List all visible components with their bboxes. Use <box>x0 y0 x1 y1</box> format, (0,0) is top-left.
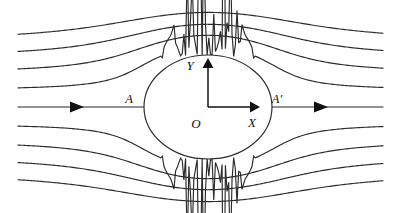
axis-label-x: X <box>247 115 257 130</box>
streamline-lower-4 <box>18 180 383 202</box>
figure-root: Y X O A A' <box>0 0 399 213</box>
stagnation-label-rear: A' <box>271 92 283 106</box>
origin-label: O <box>191 116 201 131</box>
streamline-upper-3 <box>18 24 383 51</box>
inflow-arrow-icon <box>70 102 84 113</box>
flow-diagram-svg: Y X O A A' <box>0 0 399 213</box>
stagnation-label-front: A <box>124 92 133 106</box>
outflow-arrow-icon <box>314 102 328 113</box>
streamline-upper-4 <box>18 12 383 34</box>
streamline-lower-3 <box>18 163 383 190</box>
